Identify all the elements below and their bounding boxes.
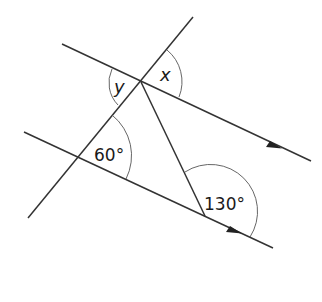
parallel-arrow-upper-icon xyxy=(266,141,282,149)
angle-130-label: 130° xyxy=(204,194,245,214)
angle-x-label: x xyxy=(159,64,171,85)
transversal-line xyxy=(28,17,193,218)
angle-60-label: 60° xyxy=(94,145,124,165)
triangle-side-segment xyxy=(141,82,205,216)
geometry-diagram: x y 60° 130° xyxy=(0,0,322,302)
angle-y-label: y xyxy=(113,76,125,97)
